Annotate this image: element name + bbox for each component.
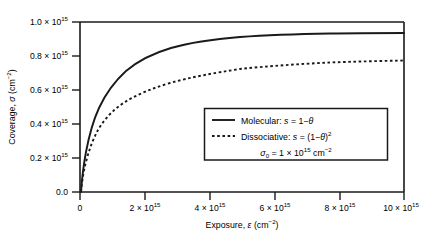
legend-label-dissociative: Dissociative: s = (1−θ)2 bbox=[241, 130, 332, 142]
x-tick-label-0: 0 bbox=[78, 203, 83, 213]
y-tick-label-0: 0.0 bbox=[56, 187, 68, 197]
langmuir-coverage-chart: 0.0 0.2 × 1015 0.4 × 1015 0.6 × 1015 0.8… bbox=[0, 0, 430, 235]
legend-note-sigma0: σ0 = 1 × 1015 cm−2 bbox=[260, 146, 332, 159]
legend-label-molecular: Molecular: s = 1−θ bbox=[241, 116, 314, 126]
y-axis-title: Coverage, σ (cm−2) bbox=[5, 69, 17, 144]
legend: Molecular: s = 1−θ Dissociative: s = (1−… bbox=[205, 109, 388, 161]
figure-container: 0.0 0.2 × 1015 0.4 × 1015 0.6 × 1015 0.8… bbox=[0, 0, 430, 235]
x-axis-title: Exposure, ε (cm−2) bbox=[206, 218, 279, 230]
